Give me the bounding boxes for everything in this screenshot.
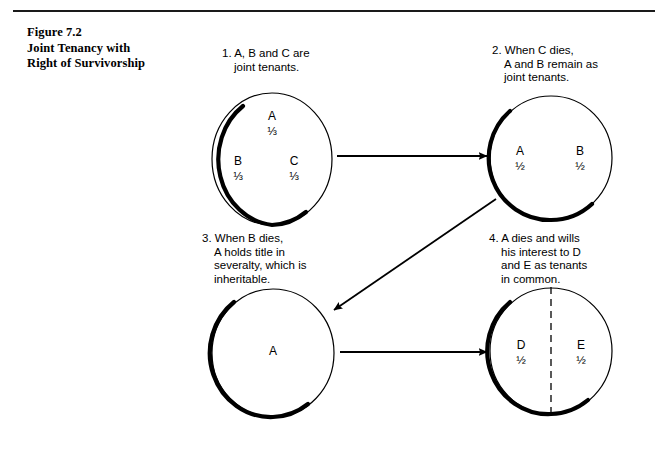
step-3-caption-line-1: 3. When B dies, (202, 232, 306, 246)
step-1-cell-1: A ⅓ (245, 109, 299, 139)
step-3-circle: A (210, 287, 336, 421)
step-2-cell-2: B ½ (556, 144, 604, 174)
arrow-step2-to-step3 (334, 199, 496, 310)
step-1-cell-3-share: ⅓ (272, 169, 316, 184)
step-1-cell-2-owner: B (216, 154, 260, 169)
step-3-caption-line-3: severalty, which is (202, 259, 306, 273)
step-4-caption-line-2: his interest to D (489, 246, 587, 260)
figure-title-line-2: Joint Tenancy with (27, 41, 202, 57)
step-4-caption-line-4: in common. (489, 273, 587, 287)
step-4-cell-2: E ½ (558, 338, 604, 368)
step-3-cell-1-owner: A (248, 344, 298, 359)
figure-title-line-1: Figure 7.2 (27, 25, 202, 41)
step-1-caption-line-2: joint tenants. (222, 61, 310, 75)
step-3-caption: 3. When B dies, A holds title in several… (202, 232, 306, 286)
step-4-caption: 4. A dies and wills his interest to D an… (489, 232, 587, 286)
step-2-cell-1-share: ½ (496, 159, 544, 174)
figure-page: Figure 7.2 Joint Tenancy with Right of S… (0, 0, 664, 453)
step-4-cell-2-share: ½ (558, 353, 604, 368)
top-divider-rule (13, 10, 655, 12)
step-2-caption-line-2: A and B remain as (492, 58, 598, 72)
step-4-cell-1-share: ½ (498, 353, 544, 368)
step-1-cell-2-share: ⅓ (216, 169, 260, 184)
step-3-caption-line-2: A holds title in (202, 246, 306, 260)
step-1-cell-1-owner: A (245, 109, 299, 124)
step-4-circle: D ½ E ½ (488, 286, 614, 420)
step-3-caption-line-4: inheritable. (202, 273, 306, 287)
step-2-caption-line-1: 2. When C dies, (492, 44, 598, 58)
step-2-circle: A ½ B ½ (488, 94, 614, 224)
step-4-cell-1-owner: D (498, 338, 544, 353)
step-4-cell-1: D ½ (498, 338, 544, 368)
step-2-cell-1-owner: A (496, 144, 544, 159)
step-1-caption-line-1: 1. A, B and C are (222, 47, 310, 61)
step-1-circle: A ⅓ B ⅓ C ⅓ (210, 91, 334, 229)
step-4-cell-2-owner: E (558, 338, 604, 353)
step-1-cell-3: C ⅓ (272, 154, 316, 184)
step-2-caption-line-3: joint tenants. (492, 71, 598, 85)
step-2-cell-2-owner: B (556, 144, 604, 159)
step-1-cell-1-share: ⅓ (245, 124, 299, 139)
figure-title-line-3: Right of Survivorship (27, 56, 202, 72)
step-1-caption: 1. A, B and C are joint tenants. (222, 47, 310, 74)
step-3-cell-1: A (248, 344, 298, 359)
step-2-caption: 2. When C dies, A and B remain as joint … (492, 44, 598, 85)
step-2-cell-1: A ½ (496, 144, 544, 174)
step-1-cell-2: B ⅓ (216, 154, 260, 184)
step-4-caption-line-3: and E as tenants (489, 259, 587, 273)
figure-title: Figure 7.2 Joint Tenancy with Right of S… (27, 25, 202, 72)
step-4-caption-line-1: 4. A dies and wills (489, 232, 587, 246)
step-2-cell-2-share: ½ (556, 159, 604, 174)
step-1-cell-3-owner: C (272, 154, 316, 169)
